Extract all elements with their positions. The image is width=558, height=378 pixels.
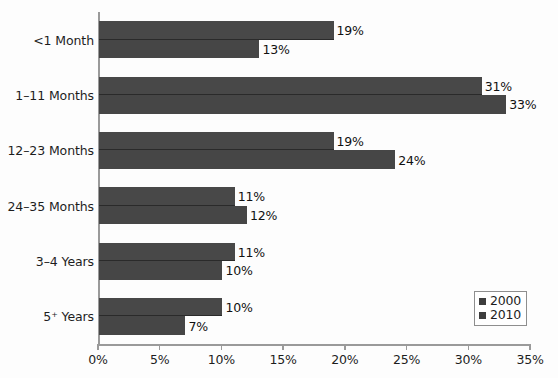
bar-2000-3 — [99, 187, 235, 206]
x-axis-tick-label: 5% — [150, 352, 169, 367]
bar-2010-5 — [99, 316, 185, 335]
bar-2000-1 — [99, 77, 482, 96]
legend-item-2000: 2000 — [479, 294, 521, 308]
bar-2000-5 — [99, 298, 222, 317]
bar-2010-4 — [99, 261, 222, 280]
bar-2010-1 — [99, 95, 506, 114]
x-axis-tick — [97, 344, 99, 350]
x-axis-tick-label: 20% — [331, 352, 358, 367]
bar-2000-0 — [99, 21, 334, 40]
bar-value-label: 10% — [225, 300, 252, 315]
bar-value-label: 13% — [262, 41, 289, 56]
bar-value-label: 11% — [238, 189, 265, 204]
y-axis-category-label: 5⁺ Years — [43, 309, 94, 324]
legend-swatch-2010-icon — [479, 312, 486, 319]
x-axis-tick-label: 30% — [455, 352, 482, 367]
x-axis-tick-label: 25% — [393, 352, 420, 367]
x-axis-tick-label: 15% — [270, 352, 297, 367]
legend-swatch-2000-icon — [479, 298, 486, 305]
x-axis-tick — [221, 344, 223, 350]
x-axis-tick-label: 35% — [516, 352, 543, 367]
x-axis-tick — [159, 344, 161, 350]
x-axis-tick — [344, 344, 346, 350]
y-axis-category-label: 12–23 Months — [7, 143, 94, 158]
bar-value-label: 10% — [225, 263, 252, 278]
bar-2010-2 — [99, 150, 395, 169]
bar-2000-2 — [99, 132, 334, 151]
bar-value-label: 19% — [337, 134, 364, 149]
x-axis-tick — [282, 344, 284, 350]
legend-label-2010: 2010 — [490, 309, 521, 322]
x-axis-tick — [529, 344, 531, 350]
y-axis-category-label: 1–11 Months — [15, 88, 94, 103]
x-axis-line — [98, 344, 530, 346]
legend: 2000 2010 — [474, 291, 527, 326]
bar-2010-3 — [99, 206, 247, 225]
bar-value-label: 7% — [188, 318, 207, 333]
bar-value-label: 11% — [238, 244, 265, 259]
bar-value-label: 19% — [337, 23, 364, 38]
y-axis-line — [98, 12, 100, 344]
bar-value-label: 24% — [398, 152, 425, 167]
x-axis-tick-label: 0% — [88, 352, 107, 367]
bar-value-label: 31% — [485, 78, 512, 93]
x-axis-tick — [406, 344, 408, 350]
bar-value-label: 12% — [250, 207, 277, 222]
legend-label-2000: 2000 — [490, 295, 521, 308]
bar-2010-0 — [99, 40, 259, 59]
y-axis-category-label: <1 Month — [33, 32, 94, 47]
bar-value-label: 33% — [509, 97, 536, 112]
bar-chart: 0%5%10%15%20%25%30%35% <1 Month1–11 Mont… — [0, 0, 558, 378]
x-axis-tick — [468, 344, 470, 350]
y-axis-category-label: 3–4 Years — [36, 254, 94, 269]
bar-2000-4 — [99, 243, 235, 262]
y-axis-category-label: 24–35 Months — [7, 198, 94, 213]
legend-item-2010: 2010 — [479, 308, 521, 322]
x-axis-tick-label: 10% — [208, 352, 235, 367]
